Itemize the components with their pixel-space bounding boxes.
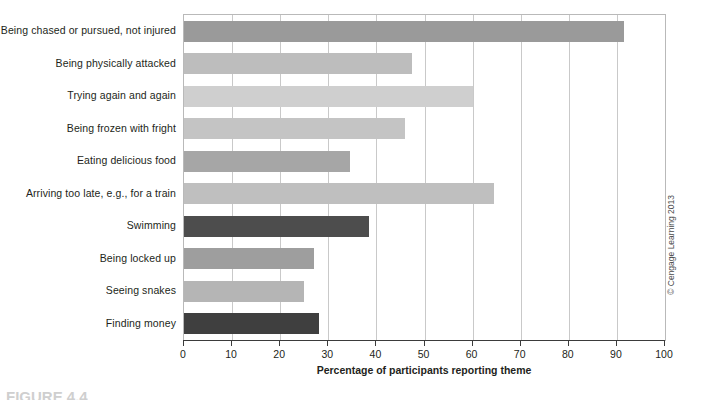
x-axis-tick-label: 100 <box>655 348 673 360</box>
x-axis-tick-label: 0 <box>180 348 186 360</box>
category-label: Being frozen with fright <box>0 122 176 134</box>
x-axis-tick <box>616 340 617 346</box>
x-axis-tick-label: 60 <box>466 348 478 360</box>
x-axis-tick-label: 10 <box>225 348 237 360</box>
bar <box>184 21 624 42</box>
category-label: Being chased or pursued, not injured <box>0 24 176 36</box>
bar <box>184 86 473 107</box>
category-label: Arriving too late, e.g., for a train <box>0 187 176 199</box>
x-axis-tick <box>183 340 184 346</box>
x-axis-tick-label: 30 <box>321 348 333 360</box>
category-label: Swimming <box>0 219 176 231</box>
bar <box>184 248 314 269</box>
bar <box>184 216 369 237</box>
plot-area <box>183 14 666 341</box>
x-axis-tick-label: 40 <box>370 348 382 360</box>
gridline <box>569 15 570 340</box>
x-axis-tick-label: 50 <box>418 348 430 360</box>
x-axis-tick <box>664 340 665 346</box>
category-label: Seeing snakes <box>0 284 176 296</box>
x-axis-tick <box>424 340 425 346</box>
x-axis-tick-label: 20 <box>273 348 285 360</box>
category-label: Eating delicious food <box>0 154 176 166</box>
gridline <box>521 15 522 340</box>
gridline <box>473 15 474 340</box>
copyright-credit: © Cengage Learning 2013 <box>666 195 676 295</box>
category-label: Trying again and again <box>0 89 176 101</box>
x-axis-tick-label: 80 <box>562 348 574 360</box>
x-axis-tick <box>327 340 328 346</box>
bar <box>184 151 350 172</box>
bar-chart-figure: Being chased or pursued, not injuredBein… <box>0 0 715 400</box>
bar <box>184 281 304 302</box>
x-axis-tick-label: 70 <box>514 348 526 360</box>
x-axis-tick <box>520 340 521 346</box>
x-axis-tick <box>375 340 376 346</box>
category-labels-axis: Being chased or pursued, not injuredBein… <box>0 14 176 339</box>
bar <box>184 183 494 204</box>
category-label: Being physically attacked <box>0 57 176 69</box>
gridline <box>617 15 618 340</box>
x-axis-title: Percentage of participants reporting the… <box>183 364 665 376</box>
x-axis-tick <box>568 340 569 346</box>
x-axis-tick-label: 90 <box>610 348 622 360</box>
bar <box>184 118 405 139</box>
bar <box>184 53 412 74</box>
gridline <box>425 15 426 340</box>
x-axis-tick <box>279 340 280 346</box>
x-axis-tick <box>231 340 232 346</box>
figure-caption-cutoff: FIGURE 4.4 <box>6 388 88 400</box>
category-label: Being locked up <box>0 252 176 264</box>
category-label: Finding money <box>0 317 176 329</box>
bar <box>184 313 319 334</box>
x-axis-tick <box>472 340 473 346</box>
